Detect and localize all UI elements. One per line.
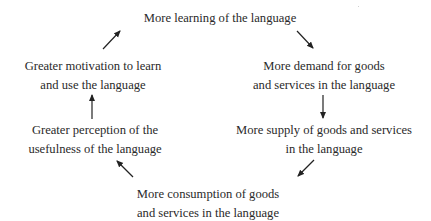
node-text-line: Greater motivation to learn — [20, 57, 166, 76]
node-greater-perception: Greater perception of the usefulness of … — [20, 121, 170, 159]
arrow-down-left-icon — [298, 160, 314, 176]
node-more-learning: More learning of the language — [110, 9, 330, 28]
speck-artifact — [358, 6, 359, 7]
node-text-line: More demand for goods — [232, 57, 416, 76]
arrow-up-right-icon — [103, 31, 120, 49]
node-text-line: and use the language — [20, 76, 166, 95]
node-more-supply: More supply of goods and services in the… — [226, 121, 422, 159]
node-text-line: and services in the language — [128, 204, 288, 221]
node-text-line: in the language — [226, 140, 422, 159]
node-greater-motivation: Greater motivation to learn and use the … — [20, 57, 166, 95]
node-text-line: usefulness of the language — [20, 140, 170, 159]
node-text-line: and services in the language — [232, 76, 416, 95]
node-text-line: More learning of the language — [110, 9, 330, 28]
arrow-down-right-icon — [297, 31, 313, 48]
node-text-line: More consumption of goods — [128, 185, 288, 204]
node-text-line: More supply of goods and services — [226, 121, 422, 140]
node-text-line: Greater perception of the — [20, 121, 170, 140]
node-more-consumption: More consumption of goods and services i… — [128, 185, 288, 221]
arrow-up-left-icon — [117, 161, 133, 177]
node-more-demand: More demand for goods and services in th… — [232, 57, 416, 95]
